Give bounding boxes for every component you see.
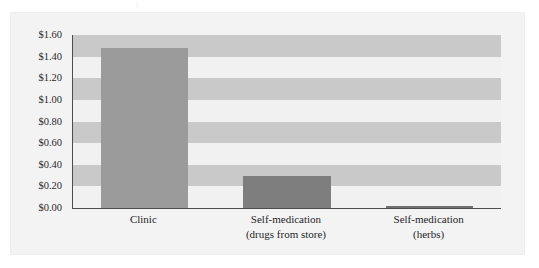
x-axis-tick-label-line2: (drugs from store) [215, 227, 358, 242]
bar-series [73, 35, 501, 208]
y-axis: $1.60$1.40$1.20$1.00$0.80$0.60$0.40$0.20… [0, 0, 68, 268]
y-axis-tick-label: $0.40 [38, 160, 62, 171]
x-axis-tick-label: Self-medication(drugs from store) [215, 212, 358, 242]
y-axis-tick-label: $1.20 [38, 73, 62, 84]
y-axis-tick-label: $1.40 [38, 52, 62, 63]
y-axis-tick-label: $0.80 [38, 117, 62, 128]
y-axis-tick-label: $0.20 [38, 181, 62, 192]
y-axis-tick-label: $0.00 [38, 203, 62, 214]
x-axis-tick-label-line1: Self-medication [251, 213, 321, 225]
bar [243, 176, 330, 208]
y-axis-tick-label: $1.00 [38, 95, 62, 106]
chart-figure: · ) · $1.60$1.40$1.20$1.00$0.80$0.60$0.4… [0, 0, 539, 268]
bar [101, 48, 188, 208]
bar [386, 206, 473, 208]
x-axis-tick-label-line1: Self-medication [394, 213, 464, 225]
y-axis-tick-label: $1.60 [38, 30, 62, 41]
y-axis-tick-label: $0.60 [38, 138, 62, 149]
x-axis-tick-label: Clinic [72, 212, 215, 227]
x-axis: ClinicSelf-medication(drugs from store)S… [72, 212, 500, 256]
bar-chart: $1.60$1.40$1.20$1.00$0.80$0.60$0.40$0.20… [0, 0, 539, 268]
x-axis-tick-label-line1: Clinic [130, 213, 157, 225]
x-axis-tick-label-line2: (herbs) [357, 227, 500, 242]
x-axis-tick-label: Self-medication(herbs) [357, 212, 500, 242]
plot-area [72, 35, 501, 209]
